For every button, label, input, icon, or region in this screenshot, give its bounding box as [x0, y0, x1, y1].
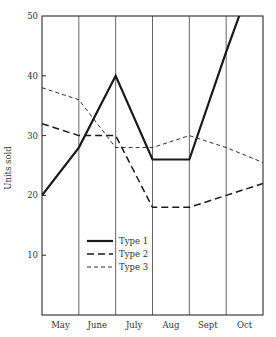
legend: Type 1Type 2Type 3 [87, 236, 148, 272]
y-axis: 1020304050 [27, 11, 46, 260]
legend-label: Type 2 [119, 249, 148, 259]
line-chart: 1020304050 MayJuneJulyAugSeptOct Type 1T… [0, 0, 276, 337]
x-tick-label: July [125, 320, 143, 330]
y-tick-label: 10 [27, 250, 38, 260]
y-tick-label: 40 [27, 71, 38, 81]
y-tick-label: 50 [27, 11, 38, 21]
y-axis-title: Units sold [3, 146, 13, 190]
x-tick-label: May [51, 320, 70, 330]
legend-label: Type 1 [119, 236, 148, 246]
gridlines [79, 16, 226, 315]
x-axis: MayJuneJulyAugSeptOct [51, 320, 253, 330]
x-tick-label: Sept [198, 320, 218, 330]
legend-label: Type 3 [119, 262, 148, 272]
x-tick-label: June [87, 320, 107, 330]
y-tick-label: 30 [27, 131, 38, 141]
x-tick-label: Oct [237, 320, 253, 330]
y-tick-label: 20 [27, 190, 38, 200]
x-tick-label: Aug [161, 320, 180, 330]
